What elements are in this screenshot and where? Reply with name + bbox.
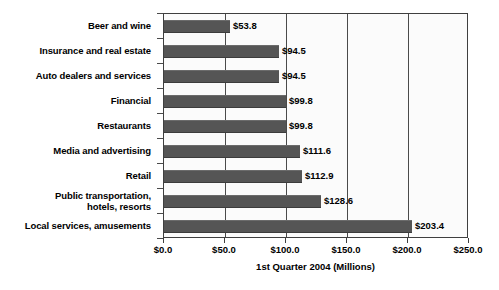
- x-axis-tick-label: $200.0: [392, 244, 421, 255]
- category-label: Media and advertising: [53, 145, 151, 156]
- bar-value-label: $53.8: [233, 20, 257, 31]
- x-axis-title: 1st Quarter 2004 (Millions): [163, 261, 468, 272]
- category-label: Restaurants: [97, 120, 151, 131]
- bar-value-label: $94.5: [282, 70, 306, 81]
- y-axis-category-labels: Beer and wineInsurance and real estateAu…: [0, 13, 157, 238]
- x-axis-tick-label: $100.0: [270, 244, 299, 255]
- x-axis-tick-label: $50.0: [212, 244, 236, 255]
- x-axis-tick: [285, 238, 286, 243]
- bar-value-labels: $53.8$94.5$94.5$99.8$99.8$111.6$112.9$12…: [163, 13, 499, 238]
- category-label: Public transportation, hotels, resorts: [55, 190, 151, 212]
- bar-value-label: $128.6: [324, 195, 353, 206]
- x-axis-tick-label: $0.0: [154, 244, 173, 255]
- bar-value-label: $111.6: [303, 145, 331, 156]
- x-axis-tick: [346, 238, 347, 243]
- bar-value-label: $203.4: [415, 220, 444, 231]
- category-label: Insurance and real estate: [39, 45, 151, 56]
- bar-value-label: $99.8: [289, 120, 313, 131]
- category-label: Financial: [111, 95, 151, 106]
- category-label: Auto dealers and services: [36, 70, 151, 81]
- x-axis-tick: [468, 238, 469, 243]
- x-axis-tick-label: $150.0: [331, 244, 360, 255]
- bar-value-label: $99.8: [289, 95, 313, 106]
- x-axis-tick: [224, 238, 225, 243]
- x-axis-tick-label: $250.0: [453, 244, 482, 255]
- category-label: Local services, amusements: [25, 220, 151, 231]
- category-label: Beer and wine: [88, 20, 151, 31]
- bar-chart: Beer and wineInsurance and real estateAu…: [0, 0, 499, 290]
- bar-value-label: $112.9: [305, 170, 334, 181]
- bar-value-label: $94.5: [282, 45, 306, 56]
- category-label: Retail: [126, 170, 151, 181]
- x-axis-tick: [163, 238, 164, 243]
- x-axis-tick: [407, 238, 408, 243]
